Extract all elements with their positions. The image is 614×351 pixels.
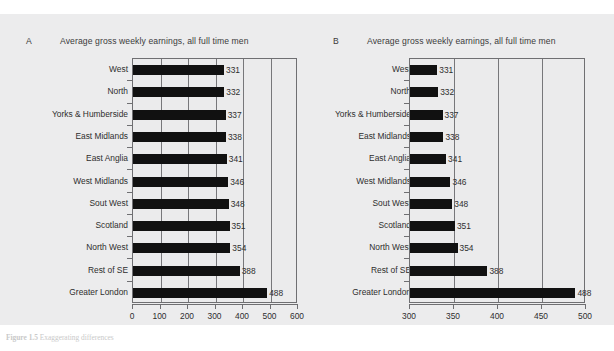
bar-row: 331 — [410, 65, 584, 75]
category-label: Yorks & Humberside — [335, 109, 411, 119]
x-axis-tick-label: 500 — [578, 311, 592, 321]
category-label: East Midlands — [358, 131, 411, 141]
bar — [410, 87, 438, 97]
bar-row: 341 — [133, 154, 296, 164]
x-axis-tick-label: 300 — [208, 311, 222, 321]
category-label: East Anglia — [369, 153, 411, 163]
chart-b-title-row: BAverage gross weekly earnings, all full… — [307, 36, 614, 46]
chart-a-x-axis: 0100200300400500600 — [132, 304, 297, 305]
x-axis-tick-label: 600 — [290, 311, 304, 321]
bar-row: 346 — [133, 177, 296, 187]
bar-row: 351 — [410, 221, 584, 231]
chart-a-title: Average gross weekly earnings, all full … — [60, 36, 249, 46]
figure-number: Figure 1.5 — [6, 333, 38, 342]
x-axis-tick-label: 0 — [130, 311, 135, 321]
bar-row: 354 — [133, 243, 296, 253]
category-label: North — [108, 86, 128, 96]
x-axis-tick — [585, 304, 586, 309]
category-label: West Midlands — [73, 176, 128, 186]
bar — [410, 132, 443, 142]
bar-value-label: 346 — [450, 177, 466, 187]
x-axis-tick — [160, 304, 161, 309]
category-label: Rest of SE — [371, 265, 411, 275]
bar — [133, 132, 226, 142]
bar — [133, 243, 230, 253]
x-axis-tick-label: 200 — [180, 311, 194, 321]
bar-row: 488 — [133, 288, 296, 298]
x-axis-tick — [270, 304, 271, 309]
bar-value-label: 337 — [443, 110, 459, 120]
x-axis-tick — [297, 304, 298, 309]
bar-row: 332 — [410, 87, 584, 97]
bar-value-label: 341 — [446, 154, 462, 164]
x-axis-tick-label: 450 — [534, 311, 548, 321]
bar — [410, 221, 455, 231]
category-label: West — [109, 64, 128, 74]
bar-value-label: 337 — [226, 110, 242, 120]
bar-row: 338 — [410, 132, 584, 142]
category-label: Greater London — [352, 287, 411, 297]
bar-value-label: 331 — [224, 65, 240, 75]
bar-value-label: 388 — [240, 266, 256, 276]
bar-row: 388 — [410, 266, 584, 276]
bar — [410, 110, 443, 120]
bar — [133, 266, 240, 276]
bar-value-label: 332 — [438, 87, 454, 97]
bar — [410, 243, 458, 253]
bar — [410, 65, 437, 75]
chart-a-bars: 331332337338341346348351354388488 — [133, 59, 296, 302]
bar-row: 332 — [133, 87, 296, 97]
bar — [133, 110, 226, 120]
bar — [410, 288, 575, 298]
bar-value-label: 354 — [230, 243, 246, 253]
bar-row: 341 — [410, 154, 584, 164]
bar-value-label: 351 — [455, 221, 471, 231]
bar-row: 354 — [410, 243, 584, 253]
bar — [133, 87, 224, 97]
bar-row: 331 — [133, 65, 296, 75]
chart-panel-a: AAverage gross weekly earnings, all full… — [0, 14, 307, 325]
bar-value-label: 351 — [230, 221, 246, 231]
bar-row: 348 — [410, 199, 584, 209]
chart-a-title-row: AAverage gross weekly earnings, all full… — [0, 36, 307, 46]
x-axis-tick — [215, 304, 216, 309]
bar-row: 351 — [133, 221, 296, 231]
bar-row: 337 — [410, 110, 584, 120]
x-axis-tick — [541, 304, 542, 309]
chart-b-letter: B — [307, 36, 367, 46]
bar-value-label: 346 — [228, 177, 244, 187]
bar-row: 337 — [133, 110, 296, 120]
x-axis-tick — [242, 304, 243, 309]
bar-value-label: 341 — [227, 154, 243, 164]
category-label: Rest of SE — [88, 265, 128, 275]
figure-caption-text: Exaggerating differences — [40, 333, 114, 342]
bar — [410, 154, 446, 164]
category-label: Sout West — [90, 198, 128, 208]
bar-value-label: 338 — [226, 132, 242, 142]
category-label: Scotland — [378, 220, 411, 230]
bar — [133, 288, 267, 298]
chart-b-bars: 331332337338341346348351354388488 — [410, 59, 584, 302]
x-axis-tick-label: 350 — [446, 311, 460, 321]
category-label: Yorks & Humberside — [52, 109, 128, 119]
chart-a-letter: A — [0, 36, 60, 46]
bar — [133, 199, 229, 209]
bar-value-label: 332 — [224, 87, 240, 97]
figure-caption: Figure 1.5 Exaggerating differences — [6, 333, 114, 347]
category-label: West Midlands — [356, 176, 411, 186]
bar — [410, 266, 487, 276]
bar — [410, 177, 450, 187]
bar — [133, 154, 227, 164]
x-axis-tick — [187, 304, 188, 309]
chart-b-title: Average gross weekly earnings, all full … — [367, 36, 556, 46]
bar-row: 346 — [410, 177, 584, 187]
bar-value-label: 331 — [437, 65, 453, 75]
bar-row: 488 — [410, 288, 584, 298]
x-axis-tick-label: 400 — [235, 311, 249, 321]
category-label: Sout West — [373, 198, 411, 208]
bar-row: 388 — [133, 266, 296, 276]
category-label: North — [391, 86, 411, 96]
bar — [133, 221, 230, 231]
bar-value-label: 388 — [487, 266, 503, 276]
bar-value-label: 354 — [458, 243, 474, 253]
